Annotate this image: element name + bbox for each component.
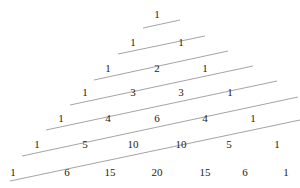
pascal-number-r4-c4: 1: [250, 113, 256, 124]
pascal-number-r3-c2: 3: [178, 87, 184, 98]
pascal-number-r5-c5: 1: [274, 139, 280, 150]
pascal-number-r2-c2: 1: [202, 63, 208, 74]
pascal-number-r3-c0: 1: [82, 87, 88, 98]
pascal-number-r6-c4: 15: [200, 167, 211, 178]
pascal-number-r6-c2: 15: [105, 167, 116, 178]
pascal-triangle-figure: 111121133114641151010511615201561: [0, 0, 300, 188]
pascal-number-r2-c1: 2: [154, 63, 160, 74]
pascal-number-r6-c0: 1: [10, 167, 16, 178]
pascal-number-r6-c5: 6: [242, 167, 248, 178]
pascal-number-r1-c1: 1: [178, 37, 184, 48]
pascal-number-r5-c3: 10: [176, 139, 187, 150]
pascal-number-r6-c6: 1: [283, 167, 289, 178]
pascal-number-r6-c1: 6: [64, 167, 70, 178]
pascal-numbers-layer: 111121133114641151010511615201561: [0, 0, 300, 188]
pascal-number-r3-c3: 1: [227, 87, 233, 98]
pascal-number-r4-c3: 4: [202, 113, 208, 124]
pascal-number-r4-c1: 4: [105, 113, 111, 124]
pascal-number-r5-c0: 1: [34, 139, 40, 150]
pascal-number-r0-c0: 1: [154, 9, 160, 20]
pascal-number-r5-c2: 10: [128, 139, 139, 150]
pascal-number-r4-c2: 6: [154, 113, 160, 124]
pascal-number-r2-c0: 1: [105, 63, 111, 74]
pascal-number-r1-c0: 1: [130, 37, 136, 48]
pascal-number-r5-c4: 5: [226, 139, 232, 150]
pascal-number-r6-c3: 20: [152, 167, 163, 178]
pascal-number-r5-c1: 5: [82, 139, 88, 150]
pascal-number-r4-c0: 1: [58, 113, 64, 124]
pascal-number-r3-c1: 3: [130, 87, 136, 98]
